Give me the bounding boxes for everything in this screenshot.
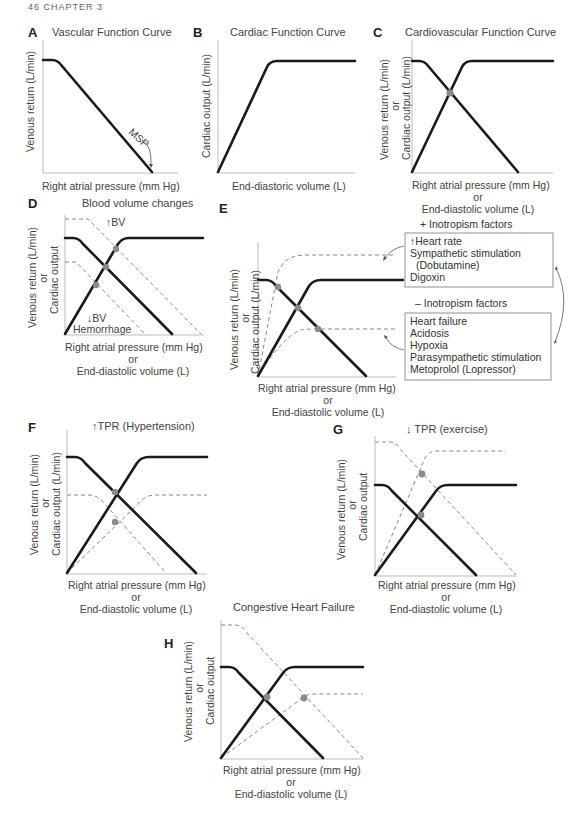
minus-item: Hypoxia: [410, 339, 448, 351]
x-axis-or: or: [128, 353, 138, 365]
equilibrium-point-normal: [103, 264, 109, 270]
equilibrium-point-normal: [264, 694, 271, 701]
equilibrium-point-positive: [275, 284, 281, 290]
x-axis-label: End-diastoric volume (L): [232, 180, 346, 192]
minus-item: Parasympathetic stimulation: [410, 351, 541, 363]
y-axis-label-2: Cardiac output (L/min): [249, 270, 261, 374]
x-axis-label-2: End-diastolic volume (L): [422, 203, 535, 215]
panel-title: ↑TPR (Hypertension): [92, 420, 195, 432]
axes: [258, 242, 396, 377]
negative-pointer-arrow: [386, 338, 404, 350]
chf-vr-curve: [221, 625, 363, 758]
y-axis-label-2: Cardiac output: [48, 246, 60, 314]
equilibrium-point: [447, 90, 454, 97]
panel-label: D: [28, 196, 37, 211]
x-axis-label-2: End-diastolic volume (L): [77, 365, 190, 377]
x-axis-label: Right atrial pressure (mm Hg): [65, 341, 203, 353]
minus-item: Acidosis: [410, 327, 449, 339]
x-axis-or: or: [473, 191, 483, 203]
panel-label: C: [373, 25, 383, 40]
plus-item: (Dobutamine): [416, 259, 480, 271]
panel-c: C Cardiovascular Function Curve Venous r…: [373, 25, 556, 215]
venous-return-curve: [375, 485, 476, 575]
arrowhead-icon: [555, 266, 558, 270]
venous-return-curve: [221, 667, 323, 758]
equilibrium-point-hypertension: [112, 519, 118, 525]
equilibrium-point-low: [93, 282, 99, 288]
x-axis-or: or: [286, 776, 296, 788]
positive-inotropy-curve: [258, 255, 396, 376]
hemorrhage-label: Hemorrhage: [73, 323, 132, 335]
panel-f: F ↑TPR (Hypertension) Venous return (L/m…: [28, 420, 207, 615]
minus-item: Metoprolol (Lopressor): [410, 363, 516, 375]
y-axis-label-2: Cardiac output (L/min): [50, 452, 62, 556]
x-axis-label: Right atrial pressure (mm Hg): [412, 179, 550, 191]
plus-item: Digoxin: [410, 271, 445, 283]
positive-pointer-arrow: [385, 246, 404, 258]
x-axis-label-2: End-diastolic volume (L): [390, 603, 503, 615]
panel-b: B Cardiac Function Curve Cardiac output …: [193, 25, 355, 192]
equilibrium-point-exercise: [419, 471, 426, 478]
cardiac-output-curve: [221, 667, 363, 758]
x-axis-or: or: [441, 591, 451, 603]
panel-label: A: [28, 25, 38, 40]
vascular-function-curve: [43, 60, 152, 172]
cardiac-output-curve: [258, 280, 403, 376]
panel-e: E Venous return (L/min) or Cardiac outpu…: [219, 201, 564, 418]
equilibrium-point-normal: [418, 512, 425, 519]
panel-a: A Vascular Function Curve MSP Venous ret…: [24, 25, 180, 192]
panel-h: Congestive Heart Failure H Venous return…: [164, 601, 364, 800]
x-axis-label: Right atrial pressure (mm Hg): [68, 579, 206, 591]
x-axis-label-2: End-diastolic volume (L): [235, 788, 348, 800]
panel-title: Blood volume changes: [82, 197, 194, 209]
x-axis-label-2: End-diastolic volume (L): [272, 406, 385, 418]
plus-inotropism-title: + Inotropism factors: [420, 218, 513, 230]
plus-item: Sympathetic stimulation: [410, 247, 521, 259]
panel-title: Cardiac Function Curve: [230, 26, 346, 38]
x-axis-label: Right atrial pressure (mm Hg): [42, 180, 180, 192]
y-axis-label: Cardiac output (L/min): [200, 54, 212, 158]
decreased-tpr-vr-curve: [375, 442, 516, 575]
plus-item: ↑Heart rate: [410, 235, 462, 247]
y-axis-label-2: Cardiac output: [204, 657, 216, 725]
panel-d: D Blood volume changes ↑BV ↓BV Hemorrhag…: [26, 196, 204, 377]
panel-title: Vascular Function Curve: [52, 26, 172, 38]
venous-return-curve: [65, 238, 172, 334]
y-axis-label: Venous return (L/min): [24, 51, 36, 152]
axes: [43, 40, 178, 173]
increased-bv-label: ↑BV: [106, 216, 125, 228]
cardiovascular-diagram: A Vascular Function Curve MSP Venous ret…: [0, 0, 578, 828]
axes: [221, 620, 364, 759]
y-axis-label-2: Cardiac output (L/min): [400, 56, 412, 160]
equilibrium-point-normal: [295, 305, 301, 311]
decreased-tpr-co-curve: [375, 451, 506, 575]
x-axis-label: Right atrial pressure (mm Hg): [223, 764, 361, 776]
panel-label: G: [333, 422, 343, 437]
arrowhead-icon: [554, 340, 557, 344]
equilibrium-point-normal: [112, 489, 118, 495]
cardiac-output-curve: [65, 238, 203, 334]
minus-item: Heart failure: [410, 315, 467, 327]
equilibrium-point-negative: [315, 326, 321, 332]
venous-return-curve: [412, 61, 518, 172]
axes: [65, 215, 204, 335]
x-axis-label: Right atrial pressure (mm Hg): [378, 579, 516, 591]
panel-label: F: [28, 420, 36, 435]
panel-title: ↓ TPR (exercise): [406, 423, 488, 435]
x-axis-label-2: End-diastolic volume (L): [80, 603, 193, 615]
venous-return-curve: [67, 457, 196, 573]
panel-label: B: [193, 25, 202, 40]
panel-label: E: [219, 201, 228, 216]
x-axis-or: or: [323, 394, 333, 406]
increased-bv-curve: [65, 219, 201, 334]
panel-title: Cardiovascular Function Curve: [405, 26, 556, 38]
box-link-arrow: [555, 268, 564, 342]
increased-tpr-vr-curve: [67, 495, 166, 573]
panel-title: Congestive Heart Failure: [233, 601, 355, 613]
x-axis-label: Right atrial pressure (mm Hg): [258, 382, 396, 394]
y-axis-label-2: Cardiac output: [357, 473, 369, 541]
minus-inotropism-title: – Inotropism factors: [415, 297, 507, 309]
axes: [375, 436, 516, 576]
panel-label: H: [164, 636, 173, 651]
panel-g: G ↓ TPR (exercise) Venous return (L/min)…: [333, 422, 516, 615]
